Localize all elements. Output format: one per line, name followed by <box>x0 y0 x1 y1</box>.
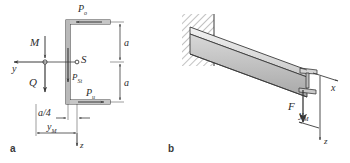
figure-container: Po Pu PSt S y M Q a <box>0 0 350 163</box>
z-axis-label-b: z <box>323 136 328 146</box>
x-axis-label: x <box>330 82 336 93</box>
load-force-label: F <box>287 100 295 112</box>
panel-b-caption: b <box>168 143 174 154</box>
end-web <box>306 73 309 88</box>
y-axis-label: y <box>11 63 17 74</box>
engineering-figure: Po Pu PSt S y M Q a <box>0 0 350 163</box>
z-axis-label-a: z <box>79 140 84 150</box>
moment-label: M <box>29 36 40 48</box>
shear-center-label: S <box>81 53 87 65</box>
dim-a-over-4-label: a/4 <box>38 107 51 118</box>
dim-a-top-label: a <box>124 37 129 48</box>
dim-a-bottom-label: a <box>124 77 129 88</box>
panel-a-caption: a <box>10 143 16 154</box>
shear-force-label: Q <box>29 76 37 88</box>
